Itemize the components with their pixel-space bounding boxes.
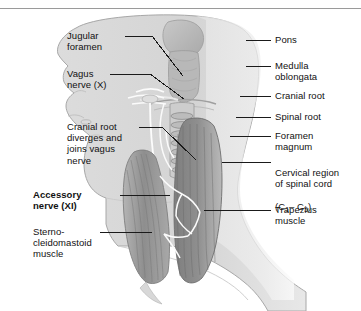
- trapezius-muscle: [174, 118, 222, 283]
- label-spinal-root: Spinal root: [275, 111, 321, 122]
- label-pons: Pons: [275, 34, 297, 45]
- label-cervical-region-text: Cervical region of spinal cord: [275, 167, 339, 189]
- label-foramen-magnum: Foramen magnum: [275, 130, 313, 152]
- label-trapezius-muscle: Trapezius muscle: [275, 204, 317, 226]
- label-cranial-root-diverges: Cranial root diverges and joins vagus ne…: [67, 121, 122, 166]
- label-medulla-oblongata: Medulla oblongata: [275, 60, 317, 82]
- label-vagus-nerve: Vagus nerve (X): [67, 68, 107, 90]
- label-jugular-foramen: Jugular foramen: [67, 30, 102, 52]
- label-accessory-nerve: Accessory nerve (XI): [33, 189, 82, 211]
- anatomy-figure: Jugular foramen Vagus nerve (X) Cranial …: [0, 0, 361, 311]
- label-cranial-root: Cranial root: [275, 90, 325, 101]
- label-sternocleidomastoid: Sterno- cleidomastoid muscle: [33, 226, 92, 260]
